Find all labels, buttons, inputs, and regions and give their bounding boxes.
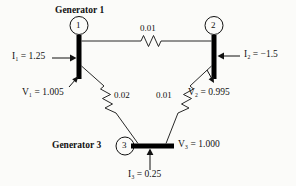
generator-1-label: Generator 1 (55, 6, 104, 16)
voltage-label-3: V₃ = 1.000 (178, 140, 220, 150)
resistor-1-2-zigzag (141, 36, 161, 47)
node-label-2: 2 (211, 21, 216, 30)
current-arrow-3-head (147, 149, 154, 156)
voltage-label-1: V₁ = 1.005 (22, 88, 64, 98)
bus-bar-3 (131, 144, 174, 149)
voltage-label-2: V₂ = 0.995 (188, 88, 230, 98)
line-1-3-upper-segment (82, 66, 105, 86)
resistance-label-line-1-3: 0.02 (114, 91, 130, 100)
current-arrow-2-head (218, 53, 225, 60)
line-2-3-upper-segment (190, 66, 212, 86)
node-label-3: 3 (122, 141, 127, 150)
generator-3-label: Generator 3 (52, 141, 101, 151)
node-label-1: 1 (76, 21, 81, 30)
current-label-3: I₃ = 0.25 (128, 170, 161, 180)
bus-bar-1 (77, 35, 82, 79)
current-label-1: I₁ = 1.25 (12, 52, 45, 62)
current-arrow-1-head (70, 55, 77, 62)
line-2-3-lower-segment (166, 113, 178, 144)
resistance-label-line-2-3: 0.01 (156, 91, 172, 100)
current-label-2: I₂ = −1.5 (244, 50, 278, 60)
power-system-diagram: Generator 1 1 2 3 Generator 3 0.01 0.02 … (0, 0, 296, 186)
resistance-label-line-1-2: 0.01 (140, 24, 156, 33)
bus-bar-2 (212, 35, 217, 79)
